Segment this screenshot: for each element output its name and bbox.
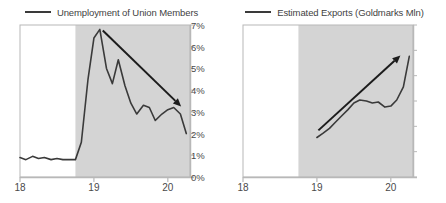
x-axis-tick-label: 19 — [88, 182, 99, 193]
x-axis-tick-label: 19 — [311, 182, 322, 193]
y-axis-tick-label: 6% — [191, 41, 205, 52]
x-axis-tick-label: 18 — [14, 182, 25, 193]
plot-area-unemployment — [0, 0, 223, 203]
y-axis-tick-label: 7% — [191, 20, 205, 31]
exports-plot-svg — [223, 0, 446, 203]
unemployment-plot-svg — [0, 0, 223, 203]
chart-panel-unemployment: Unemployment of Union Members 0%1%2%3%4%… — [0, 0, 223, 203]
y-axis-tick-label: 2% — [191, 128, 205, 139]
y-axis-unemployment: 0%1%2%3%4%5%6%7% — [191, 0, 227, 203]
dual-chart-figure: Unemployment of Union Members 0%1%2%3%4%… — [0, 0, 446, 203]
y-axis-tick-label: 1% — [191, 150, 205, 161]
chart-panel-exports: Estimated Exports (Goldmarks Mln) 050100… — [223, 0, 446, 203]
x-axis-tick-label: 20 — [385, 182, 396, 193]
y-axis-tick-label: 4% — [191, 85, 205, 96]
plot-area-exports — [223, 0, 446, 203]
y-axis-tick-label: 0% — [191, 172, 205, 183]
y-axis-tick-label: 3% — [191, 106, 205, 117]
x-axis-tick-label: 20 — [162, 182, 173, 193]
x-axis-tick-label: 18 — [237, 182, 248, 193]
y-axis-tick-label: 5% — [191, 63, 205, 74]
